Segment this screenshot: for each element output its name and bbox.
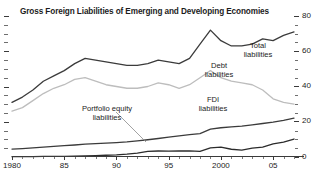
series-line-debt-liabilities [12, 71, 294, 112]
x-tick-minor-1987 [85, 157, 86, 159]
annotation-debt-liabilities: Debt liabilities [196, 62, 242, 79]
y-tick-minor-45 [295, 78, 298, 79]
y-tick-mark [294, 16, 299, 17]
y-tick-label: 20 [302, 116, 311, 125]
x-tick-major-1990 [116, 157, 117, 160]
y-tick-minor-75 [295, 25, 298, 26]
x-tick-minor-2006 [284, 157, 285, 159]
annotation-pe-line2: liabilities [93, 113, 122, 122]
y-left-tick-major-60 [4, 51, 9, 52]
x-tick-major-1980 [12, 157, 13, 160]
annotation-fdi-liabilities: FDI liabilities [192, 96, 234, 113]
x-tick-minor-1983 [43, 157, 44, 159]
y-tick-mark [294, 86, 299, 87]
y-tick-minor-25 [295, 113, 298, 114]
annotation-fdi-line2: liabilities [199, 104, 228, 113]
x-tick-minor-2002 [242, 157, 243, 159]
y-tick-minor-50 [295, 69, 298, 70]
annotation-total-liabilities: Total liabilities [236, 42, 280, 59]
x-tick-minor-2007 [294, 157, 295, 159]
x-tick-label-2000: 2000 [212, 161, 230, 170]
y-left-tick-minor-50 [4, 69, 8, 70]
x-tick-major-1985 [64, 157, 65, 160]
x-tick-label-2005: 05 [269, 161, 278, 170]
x-tick-minor-2003 [252, 157, 253, 159]
x-tick-minor-1988 [96, 157, 97, 159]
y-axis-right: 020406080 [294, 16, 324, 157]
plot-area [12, 16, 294, 157]
x-tick-major-1995 [169, 157, 170, 160]
y-left-tick-minor-75 [4, 25, 8, 26]
annotation-portfolio-equity-liabilities: Portfolio equity liabilities [68, 105, 146, 122]
x-tick-minor-1999 [210, 157, 211, 159]
x-tick-minor-1992 [137, 157, 138, 159]
x-tick-label-1990: 90 [112, 161, 121, 170]
x-tick-label-1980: 1980 [3, 161, 21, 170]
y-left-tick-major-40 [4, 87, 9, 88]
y-tick-label: 80 [302, 11, 311, 20]
y-tick-minor-15 [295, 131, 298, 132]
y-tick-minor-55 [295, 60, 298, 61]
x-tick-minor-1997 [190, 157, 191, 159]
y-tick-minor-65 [295, 42, 298, 43]
y-tick-minor-5 [295, 148, 298, 149]
series-line-portfolio-equity-liabilities [12, 139, 294, 157]
x-tick-minor-1982 [33, 157, 34, 159]
y-tick-mark [294, 51, 299, 52]
y-tick-minor-10 [295, 139, 298, 140]
y-left-tick-major-80 [4, 16, 9, 17]
x-tick-minor-1989 [106, 157, 107, 159]
y-tick-minor-35 [295, 95, 298, 96]
x-tick-label-1985: 85 [60, 161, 69, 170]
y-tick-minor-30 [295, 104, 298, 105]
x-tick-minor-1981 [22, 157, 23, 159]
x-tick-minor-2001 [231, 157, 232, 159]
x-tick-label-1995: 95 [164, 161, 173, 170]
x-tick-minor-1984 [54, 157, 55, 159]
annotation-debt-line2: liabilities [205, 70, 234, 79]
x-tick-minor-1998 [200, 157, 201, 159]
y-left-tick-minor-30 [4, 104, 8, 105]
y-left-tick-minor-15 [4, 131, 8, 132]
y-left-tick-minor-10 [4, 139, 8, 140]
plot-svg [12, 16, 294, 157]
y-tick-label: 60 [302, 46, 311, 55]
y-tick-minor-70 [295, 34, 298, 35]
y-left-tick-minor-5 [4, 148, 8, 149]
y-left-tick-minor-35 [4, 95, 8, 96]
x-tick-minor-2004 [263, 157, 264, 159]
x-tick-minor-1986 [75, 157, 76, 159]
y-left-tick-major-20 [4, 122, 9, 123]
y-left-tick-minor-70 [4, 34, 8, 35]
x-tick-minor-1991 [127, 157, 128, 159]
y-axis-left-ticks [4, 16, 14, 157]
x-tick-minor-1994 [158, 157, 159, 159]
x-tick-minor-1996 [179, 157, 180, 159]
annotation-total-line2: liabilities [244, 50, 273, 59]
y-left-tick-minor-25 [4, 113, 8, 114]
y-left-tick-minor-45 [4, 78, 8, 79]
x-tick-minor-1993 [148, 157, 149, 159]
chart-container: Gross Foreign Liabilities of Emerging an… [0, 0, 324, 180]
x-tick-major-2000 [221, 157, 222, 160]
series-line-fdi-liabilities [12, 118, 294, 149]
chart-title: Gross Foreign Liabilities of Emerging an… [20, 7, 269, 16]
y-tick-label: 40 [302, 81, 311, 90]
y-left-tick-minor-55 [4, 60, 8, 61]
x-tick-major-2005 [273, 157, 274, 160]
y-tick-mark [294, 121, 299, 122]
y-left-tick-minor-65 [4, 42, 8, 43]
x-axis: 1980859095200005 [12, 156, 312, 180]
